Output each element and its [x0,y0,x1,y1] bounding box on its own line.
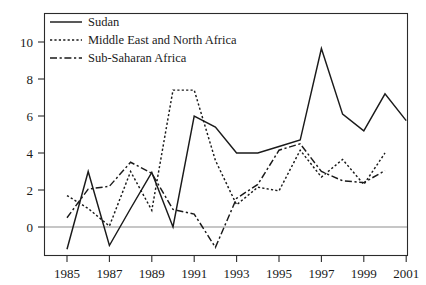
x-tick-label-1989: 1989 [139,266,165,281]
x-tick-label-1997: 1997 [308,266,335,281]
y-axis-labels: 10 8 6 4 2 0 [20,35,34,235]
x-tick-label-1985: 1985 [54,266,80,281]
y-tick-label-4: 4 [27,146,34,161]
x-tick-label-1991: 1991 [181,266,207,281]
y-tick-label-2: 2 [27,183,34,198]
series-line-sudan [67,48,406,249]
plot-frame [45,14,408,256]
y-tick-label-8: 8 [27,72,34,87]
series-group [67,48,406,249]
y-tick-label-10: 10 [20,35,33,50]
x-axis-labels: 1985 1987 1989 1991 1993 1995 1997 1999 … [54,266,419,281]
x-tick-label-1995: 1995 [266,266,292,281]
series-line-sub-saharan-africa [67,144,385,248]
line-chart: 10 8 6 4 2 0 1985 1987 1989 1991 1993 1 [0,0,426,285]
x-axis-ticks [67,256,406,263]
x-tick-label-1987: 1987 [96,266,123,281]
y-tick-label-6: 6 [27,109,34,124]
x-tick-label-1999: 1999 [351,266,377,281]
legend-label-sudan: Sudan [88,15,120,29]
y-tick-label-0: 0 [27,220,34,235]
x-tick-label-2001: 2001 [393,266,419,281]
legend: Sudan Middle East and North Africa Sub-S… [50,15,237,65]
legend-label-middle-east-and-north-africa: Middle East and North Africa [88,33,237,47]
chart-container: 10 8 6 4 2 0 1985 1987 1989 1991 1993 1 [0,0,426,285]
legend-label-sub-saharan-africa: Sub-Saharan Africa [88,51,187,65]
x-tick-label-1993: 1993 [224,266,250,281]
series-line-middle-east-and-north-africa [67,90,385,226]
